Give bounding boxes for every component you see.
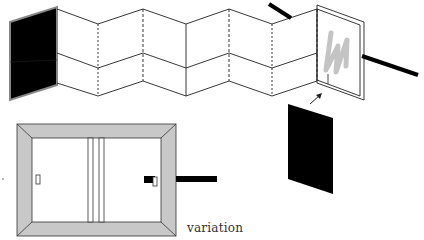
black-panel-floating [288, 104, 333, 194]
dot-mark [2, 178, 4, 180]
door-handle-right [153, 177, 157, 186]
door-handle-left [36, 175, 40, 184]
rod-right [362, 56, 418, 75]
signature-mark [326, 33, 347, 72]
folded-accordion-panels [57, 9, 317, 96]
rod-top [269, 4, 291, 18]
folded-screen-diagram [0, 0, 424, 240]
black-end-panel-left [10, 7, 57, 100]
caption-label: variation [187, 221, 243, 235]
rod-door [176, 176, 217, 182]
diagram-canvas: variation [0, 0, 424, 240]
arrow-icon [310, 93, 322, 104]
